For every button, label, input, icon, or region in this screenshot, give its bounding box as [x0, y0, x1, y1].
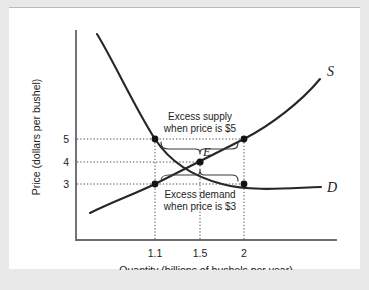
excess-supply-annotation: Excess supply when price is $5	[163, 111, 237, 134]
demand-curve-label: D	[326, 180, 337, 195]
xtick-label-2: 2	[241, 247, 247, 259]
supply-demand-chart: 5 4 3 1.1 1.5 2 Price (dollars per bushe…	[9, 8, 360, 270]
excess-demand-annotation: Excess demand when price is $3	[163, 189, 237, 212]
marker-demand-at-price-3	[241, 181, 248, 188]
equilibrium-label: E	[202, 145, 211, 159]
figure-card: 5 4 3 1.1 1.5 2 Price (dollars per bushe…	[9, 7, 360, 269]
figure-root: 5 4 3 1.1 1.5 2 Price (dollars per bushe…	[0, 0, 369, 290]
ytick-label-5: 5	[63, 133, 69, 145]
ytick-label-4: 4	[63, 156, 69, 168]
xtick-label-1-1: 1.1	[148, 247, 163, 259]
x-axis-title: Quantity (billions of bushels per year)	[119, 264, 292, 270]
marker-demand-at-price-5	[152, 136, 159, 143]
excess-supply-line-1: Excess supply	[168, 111, 232, 122]
excess-demand-line-2: when price is $3	[163, 201, 237, 212]
marker-supply-at-price-5	[241, 136, 248, 143]
ytick-label-3: 3	[63, 178, 69, 190]
marker-equilibrium	[196, 158, 203, 165]
supply-curve-label: S	[327, 64, 334, 79]
y-axis-title: Price (dollars per bushel)	[30, 79, 42, 196]
xtick-label-1-5: 1.5	[193, 247, 208, 259]
marker-supply-at-price-3	[152, 181, 159, 188]
excess-demand-line-1: Excess demand	[164, 189, 235, 200]
excess-supply-line-2: when price is $5	[163, 123, 237, 134]
